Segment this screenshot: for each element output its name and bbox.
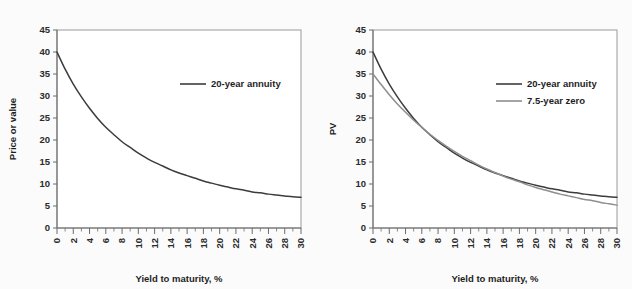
plot-frame xyxy=(57,30,301,228)
x-axis-title: Yield to maturity, % xyxy=(135,273,223,284)
y-tick-label: 0 xyxy=(361,222,366,233)
y-tick-label: 0 xyxy=(45,222,50,233)
y-tick-label: 15 xyxy=(355,156,366,167)
chart-panel-left: 0510152025303540450246810121416182022242… xyxy=(0,0,316,289)
x-tick-label: 0 xyxy=(367,238,378,243)
y-tick-label: 20 xyxy=(355,134,366,145)
legend-label: 20-year annuity xyxy=(527,78,597,89)
y-tick-label: 30 xyxy=(355,90,366,101)
x-tick-label: 16 xyxy=(182,238,193,249)
y-tick-label: 40 xyxy=(355,46,366,57)
x-tick-label: 20 xyxy=(214,238,225,249)
y-tick-label: 45 xyxy=(355,24,366,35)
x-tick-label: 0 xyxy=(51,238,62,243)
y-tick-label: 30 xyxy=(39,90,50,101)
y-tick-label: 35 xyxy=(39,68,50,79)
legend-label: 7.5-year zero xyxy=(527,95,585,106)
y-tick-label: 45 xyxy=(39,24,50,35)
x-tick-label: 28 xyxy=(595,238,606,249)
chart-panel-right: 0510152025303540450246810121416182022242… xyxy=(316,0,632,289)
x-tick-label: 6 xyxy=(416,238,427,243)
x-tick-label: 4 xyxy=(400,237,411,243)
x-tick-label: 12 xyxy=(149,238,160,249)
x-tick-label: 30 xyxy=(295,238,306,249)
x-tick-label: 20 xyxy=(530,238,541,249)
x-tick-label: 22 xyxy=(230,238,241,249)
x-tick-label: 24 xyxy=(563,237,574,248)
x-tick-label: 2 xyxy=(68,238,79,243)
y-axis-title: PV xyxy=(327,122,338,135)
x-tick-label: 4 xyxy=(84,237,95,243)
y-axis-title: Price or value xyxy=(7,98,18,160)
y-tick-label: 5 xyxy=(45,200,51,211)
y-tick-label: 25 xyxy=(355,112,366,123)
x-tick-label: 18 xyxy=(198,238,209,249)
x-tick-label: 16 xyxy=(498,238,509,249)
x-tick-label: 28 xyxy=(279,238,290,249)
y-tick-label: 40 xyxy=(39,46,50,57)
x-tick-label: 12 xyxy=(465,238,476,249)
x-tick-label: 8 xyxy=(116,238,127,243)
y-tick-label: 10 xyxy=(355,178,366,189)
y-tick-label: 5 xyxy=(361,200,367,211)
x-tick-label: 18 xyxy=(514,238,525,249)
y-tick-label: 20 xyxy=(39,134,50,145)
x-tick-label: 22 xyxy=(546,238,557,249)
x-tick-label: 6 xyxy=(100,238,111,243)
chart-svg-left: 0510152025303540450246810121416182022242… xyxy=(0,0,316,289)
y-tick-label: 25 xyxy=(39,112,50,123)
y-tick-label: 35 xyxy=(355,68,366,79)
x-tick-label: 8 xyxy=(432,238,443,243)
x-tick-label: 26 xyxy=(263,238,274,249)
x-tick-label: 26 xyxy=(579,238,590,249)
y-tick-label: 10 xyxy=(39,178,50,189)
legend-label: 20-year annuity xyxy=(211,78,281,89)
x-tick-label: 14 xyxy=(481,237,492,248)
x-tick-label: 24 xyxy=(247,237,258,248)
x-tick-label: 14 xyxy=(165,237,176,248)
x-tick-label: 2 xyxy=(384,238,395,243)
x-tick-label: 10 xyxy=(133,238,144,249)
x-tick-label: 30 xyxy=(611,238,622,249)
y-tick-label: 15 xyxy=(39,156,50,167)
chart-svg-right: 0510152025303540450246810121416182022242… xyxy=(316,0,632,289)
x-tick-label: 10 xyxy=(449,238,460,249)
figure-canvas: 0510152025303540450246810121416182022242… xyxy=(0,0,632,289)
x-axis-title: Yield to maturity, % xyxy=(451,273,539,284)
